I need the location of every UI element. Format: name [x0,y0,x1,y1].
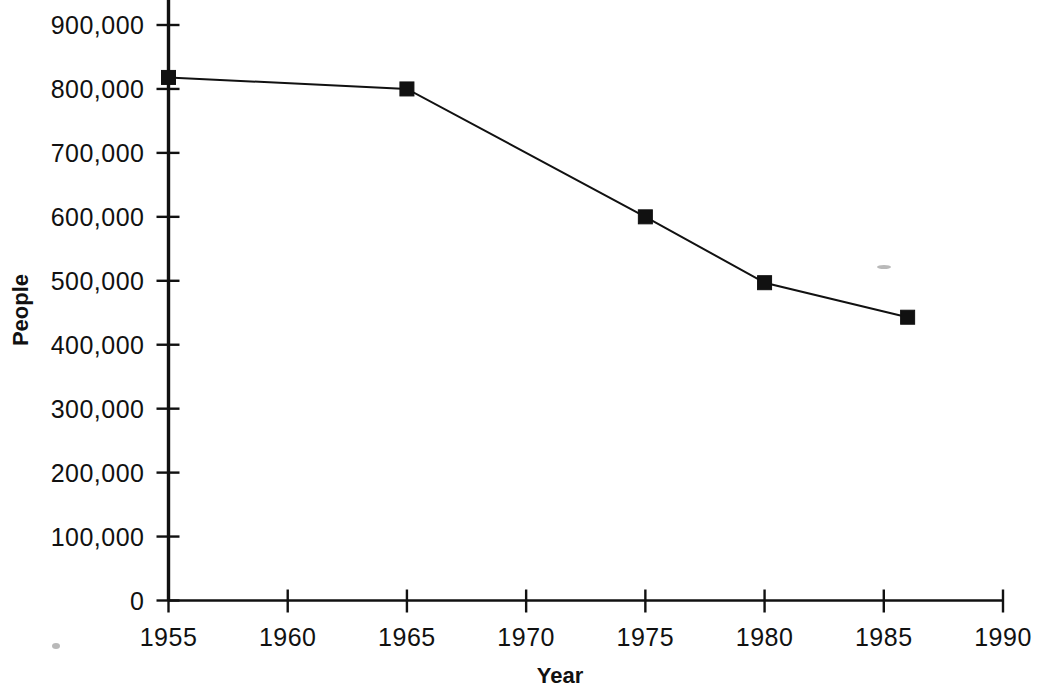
series-data-point [901,310,915,324]
y-tick-label: 0 [130,587,144,615]
series-data-point [400,82,414,96]
y-tick-label: 100,000 [51,523,145,551]
y-tick-label: 900,000 [51,11,145,39]
y-tick-label: 400,000 [51,331,145,359]
x-tick-label: 1980 [736,623,794,651]
x-tick-label: 1975 [617,623,675,651]
x-tick-label: 1955 [140,623,198,651]
scan-speck [877,265,891,269]
x-tick-label: 1970 [497,623,555,651]
y-tick-label: 700,000 [51,139,145,167]
line-chart-figure: 0100,000200,000300,000400,000500,000600,… [0,0,1039,690]
x-tick-label: 1965 [378,623,436,651]
y-tick-label: 300,000 [51,395,145,423]
x-axis-title: Year [537,663,584,688]
x-tick-label: 1985 [855,623,913,651]
chart-background [0,0,1039,690]
x-tick-label: 1960 [259,623,317,651]
y-axis-title: People [8,274,33,346]
series-data-point [162,70,176,84]
scan-speck [52,643,60,649]
y-tick-label: 500,000 [51,267,145,295]
y-tick-label: 800,000 [51,75,145,103]
chart-plot-area: 0100,000200,000300,000400,000500,000600,… [0,0,1039,690]
series-data-point [758,276,772,290]
x-tick-label: 1990 [974,623,1032,651]
y-tick-label: 600,000 [51,203,145,231]
series-data-point [638,210,652,224]
y-tick-label: 200,000 [51,459,145,487]
